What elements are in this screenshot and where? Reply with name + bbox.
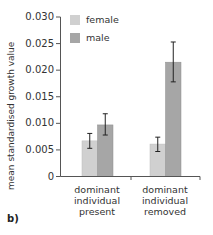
x-category-line: removed bbox=[130, 206, 200, 217]
y-tick-label: 0.025 bbox=[10, 39, 54, 49]
legend-swatch-male bbox=[70, 33, 80, 43]
x-category-line: present bbox=[62, 206, 132, 217]
legend-label-female: female bbox=[86, 14, 119, 25]
x-category-line: individual bbox=[130, 195, 200, 206]
y-axis-label: mean standardised growth value bbox=[6, 42, 16, 190]
y-tick-label: 0 bbox=[10, 172, 54, 182]
legend-swatch-female bbox=[70, 15, 80, 25]
x-category-line: individual bbox=[62, 195, 132, 206]
x-category-line: dominant bbox=[130, 184, 200, 195]
legend-label-male: male bbox=[86, 32, 110, 43]
y-tick-label: 0.010 bbox=[10, 118, 54, 128]
x-category-removed: dominant individual removed bbox=[130, 184, 200, 217]
y-tick-label: 0.005 bbox=[10, 145, 54, 155]
panel-label: b) bbox=[7, 213, 19, 224]
y-tick-label: 0.015 bbox=[10, 92, 54, 102]
x-category-present: dominant individual present bbox=[62, 184, 132, 217]
y-tick-label: 0.020 bbox=[10, 65, 54, 75]
x-category-line: dominant bbox=[62, 184, 132, 195]
y-tick-label: 0.030 bbox=[10, 12, 54, 22]
